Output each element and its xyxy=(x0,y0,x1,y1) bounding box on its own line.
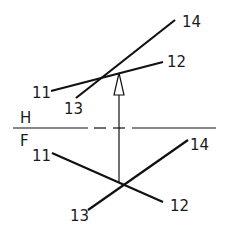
top-line-13-14 xyxy=(76,20,175,98)
top-line-11-12 xyxy=(51,62,163,91)
front-label-11: 11 xyxy=(32,147,51,165)
front-label-12: 12 xyxy=(170,197,189,215)
projection-diagram: 14 12 11 13 H F 11 14 12 13 xyxy=(0,0,226,228)
top-label-14: 14 xyxy=(182,13,201,31)
top-label-12: 12 xyxy=(167,53,186,71)
fold-label-f: F xyxy=(20,132,29,150)
top-label-13: 13 xyxy=(64,100,83,118)
fold-label-h: H xyxy=(20,109,31,127)
front-label-13: 13 xyxy=(70,207,89,225)
top-label-11: 11 xyxy=(32,84,51,102)
front-line-11-12 xyxy=(52,153,163,202)
front-label-14: 14 xyxy=(190,136,209,154)
